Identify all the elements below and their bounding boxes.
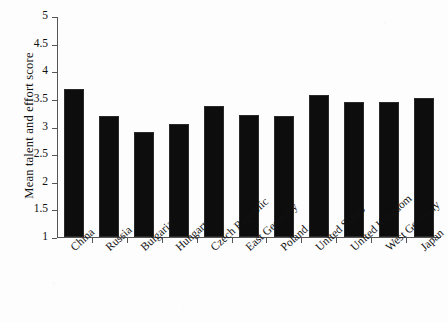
x-axis-tick — [92, 238, 93, 243]
y-axis-tick: 4.5 — [52, 45, 57, 46]
plot-area: 54.543.532.521.51 — [57, 17, 441, 238]
y-axis-tick-label: 2.5 — [34, 147, 48, 159]
y-axis-title: Mean talent and effort score — [22, 21, 37, 231]
y-axis-tick: 5 — [52, 17, 57, 18]
bar — [64, 89, 84, 237]
y-axis-tick-label: 4.5 — [34, 37, 48, 49]
bar — [169, 124, 189, 237]
y-axis-tick-label: 1 — [42, 230, 48, 242]
y-axis-line — [57, 17, 58, 238]
y-axis-tick: 3 — [52, 128, 57, 129]
bar-chart-figure: Mean talent and effort score 54.543.532.… — [0, 0, 448, 322]
y-axis-tick: 1 — [52, 238, 57, 239]
bar — [309, 95, 329, 237]
bar — [134, 132, 154, 237]
x-axis-tick — [162, 238, 163, 243]
y-axis-tick-label: 1.5 — [34, 202, 48, 214]
bar — [204, 106, 224, 237]
x-axis-tick — [127, 238, 128, 243]
x-axis-tick — [197, 238, 198, 243]
y-axis-tick-label: 2 — [42, 175, 48, 187]
bar — [99, 116, 119, 237]
y-axis-tick-label: 5 — [42, 9, 48, 21]
y-axis-tick-label: 3.5 — [34, 92, 48, 104]
y-axis-tick: 1.5 — [52, 210, 57, 211]
y-axis-tick: 2.5 — [52, 155, 57, 156]
y-axis-tick: 3.5 — [52, 100, 57, 101]
y-axis-tick-label: 4 — [42, 64, 48, 76]
y-axis-tick-label: 3 — [42, 120, 48, 132]
y-axis-tick: 4 — [52, 72, 57, 73]
y-axis-tick: 2 — [52, 183, 57, 184]
